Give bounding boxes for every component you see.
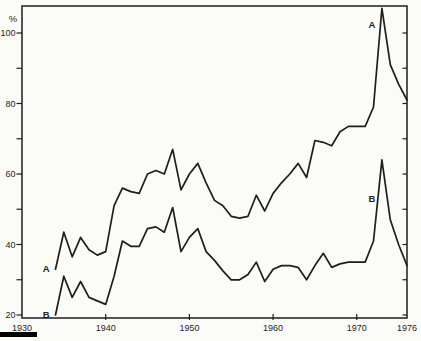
chart-canvas: 20406080100193019401950196019701976%AABB xyxy=(0,0,421,341)
x-tick-label: 1970 xyxy=(347,323,367,333)
series-a-label: A xyxy=(43,263,50,274)
y-tick-label: 60 xyxy=(5,169,15,179)
y-tick-label: 40 xyxy=(5,240,15,250)
x-tick-label: 1930 xyxy=(12,323,32,333)
x-tick-label: 1940 xyxy=(96,323,116,333)
x-tick-label: 1976 xyxy=(397,323,417,333)
series-b-label: B xyxy=(43,309,50,320)
y-tick-label: 20 xyxy=(5,310,15,320)
scanned-line-chart-figure: 20406080100193019401950196019701976%AABB xyxy=(0,0,421,341)
axis-frame xyxy=(22,6,407,318)
x-tick-label: 1950 xyxy=(179,323,199,333)
y-tick-label: 80 xyxy=(5,99,15,109)
y-tick-label: 100 xyxy=(0,28,15,38)
series-b-label: B xyxy=(368,193,375,204)
x-tick-label: 1960 xyxy=(263,323,283,333)
series-a-line xyxy=(56,8,408,269)
y-axis-unit-label: % xyxy=(9,13,18,24)
print-artifact-bar xyxy=(0,332,37,337)
series-a-label: A xyxy=(368,19,375,30)
